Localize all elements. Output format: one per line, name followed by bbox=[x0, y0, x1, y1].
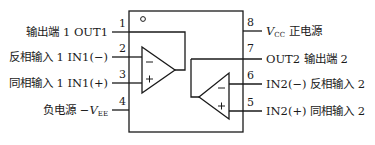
pin-7-label-en: OUT2 bbox=[266, 52, 300, 66]
pinout-diagram: 1 2 3 4 8 7 6 5 输出端 1 OUT1 反相输入 1 IN1(−)… bbox=[0, 0, 375, 145]
pin-number-8: 8 bbox=[247, 17, 254, 29]
pin-3-label-en: IN1(+) bbox=[67, 76, 108, 90]
op-amp-1-triangle bbox=[142, 47, 175, 93]
pin-4-label-cn: 负电源 bbox=[43, 103, 76, 117]
pin-5-label: IN2(+) 同相输入 2 bbox=[266, 105, 365, 118]
pin-8-label: VCC 正电源 bbox=[266, 25, 322, 42]
pin-4-label-en: −V bbox=[80, 103, 98, 117]
package-body bbox=[129, 11, 243, 132]
pin-3-label: 同相输入 1 IN1(+) bbox=[9, 77, 108, 90]
pin-1-label-en: OUT1 bbox=[74, 25, 108, 39]
pin-8-label-subscript: CC bbox=[274, 31, 285, 39]
pin-number-5: 5 bbox=[247, 97, 254, 109]
pin-1-label-cn: 输出端 1 bbox=[26, 25, 70, 39]
op-amp-1-output-wire bbox=[129, 32, 185, 70]
op-amp-2-output-wire bbox=[191, 59, 199, 97]
pin-5-label-en: IN2(+) bbox=[266, 104, 307, 118]
pin-6-label-en: IN2(−) bbox=[266, 77, 307, 91]
pin-2-label-en: IN1(−) bbox=[67, 50, 108, 64]
pin-2-label: 反相输入 1 IN1(−) bbox=[9, 51, 108, 64]
op-amp-2-triangle bbox=[199, 73, 229, 119]
pin-7-label-cn: 输出端 2 bbox=[304, 52, 348, 66]
pin-6-label: IN2(−) 反相输入 2 bbox=[266, 78, 365, 91]
pin-1-label: 输出端 1 OUT1 bbox=[26, 26, 108, 39]
pin-5-label-cn: 同相输入 2 bbox=[310, 104, 365, 118]
pin-4-label-subscript: EE bbox=[98, 110, 108, 118]
pin-number-7: 7 bbox=[247, 43, 254, 55]
pin-4-label: 负电源 −VEE bbox=[43, 104, 108, 121]
pin-6-label-cn: 反相输入 2 bbox=[310, 77, 365, 91]
pin1-orientation-mark bbox=[141, 17, 146, 22]
pin-number-1: 1 bbox=[119, 18, 126, 30]
pin-number-4: 4 bbox=[119, 96, 126, 108]
schematic-lines bbox=[0, 0, 375, 145]
pin-number-2: 2 bbox=[119, 43, 126, 55]
pin-3-label-cn: 同相输入 1 bbox=[9, 76, 64, 90]
pin-8-label-cn: 正电源 bbox=[289, 24, 322, 38]
pin-2-label-cn: 反相输入 1 bbox=[9, 50, 64, 64]
pin-number-3: 3 bbox=[119, 69, 126, 81]
pin-number-6: 6 bbox=[247, 70, 254, 82]
pin-7-label: OUT2 输出端 2 bbox=[266, 53, 348, 66]
